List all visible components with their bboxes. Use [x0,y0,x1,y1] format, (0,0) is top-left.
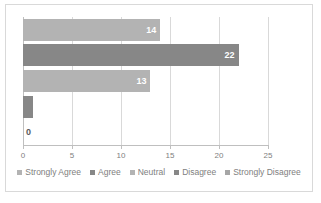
chart-container: 14221310 0510152025 Strongly AgreeAgreeN… [5,4,313,192]
chart-legend: Strongly AgreeAgreeNeutralDisagreeStrong… [6,168,312,177]
x-tick-mark [72,145,73,149]
legend-item-strongly-agree[interactable]: Strongly Agree [17,168,81,177]
legend-item-neutral[interactable]: Neutral [130,168,165,177]
x-tick-label: 25 [264,151,273,160]
legend-swatch-icon [17,170,22,175]
legend-item-agree[interactable]: Agree [90,168,121,177]
gridline-25 [268,17,269,145]
bar-value-label: 1 [36,102,41,111]
bar-row[interactable]: 14 [23,19,268,41]
x-tick-mark [170,145,171,149]
legend-swatch-icon [130,170,135,175]
legend-label: Agree [98,168,121,177]
bar-strongly-agree[interactable] [23,19,160,41]
bar-agree[interactable] [23,44,239,66]
bar-row[interactable]: 13 [23,70,268,92]
x-axis: 0510152025 [23,145,268,165]
x-tick-label: 10 [117,151,126,160]
bar-value-label: 22 [225,51,235,60]
legend-item-disagree[interactable]: Disagree [174,168,216,177]
bar-row[interactable]: 0 [23,121,268,143]
legend-swatch-icon [174,170,179,175]
bar-value-label: 0 [26,128,31,137]
x-tick-label: 5 [70,151,74,160]
bar-row[interactable]: 22 [23,44,268,66]
bar-neutral[interactable] [23,70,150,92]
x-tick-mark [23,145,24,149]
legend-label: Strongly Disagree [233,168,301,177]
legend-swatch-icon [225,170,230,175]
bar-value-label: 13 [136,77,146,86]
bar-row[interactable]: 1 [23,96,268,118]
x-tick-label: 20 [215,151,224,160]
legend-label: Disagree [182,168,216,177]
legend-item-strongly-disagree[interactable]: Strongly Disagree [225,168,301,177]
bar-disagree[interactable] [23,96,33,118]
legend-swatch-icon [90,170,95,175]
x-tick-mark [121,145,122,149]
x-tick-label: 15 [166,151,175,160]
plot-area: 14221310 [23,17,268,145]
legend-label: Strongly Agree [25,168,81,177]
bar-value-label: 14 [146,25,156,34]
legend-label: Neutral [138,168,165,177]
x-tick-mark [219,145,220,149]
x-tick-label: 0 [21,151,25,160]
x-tick-mark [268,145,269,149]
